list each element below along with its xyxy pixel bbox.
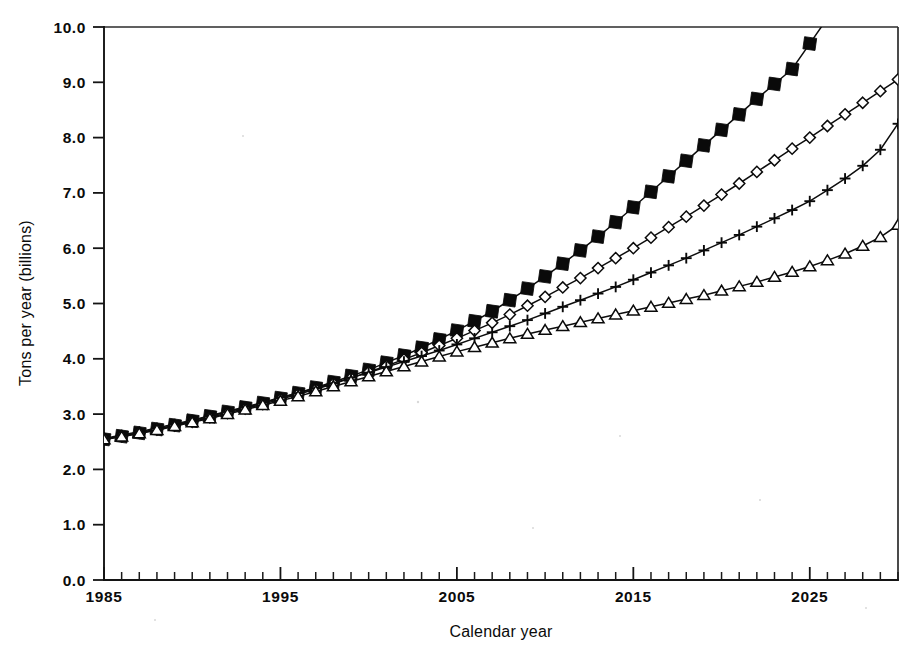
x-tick-label: 2015: [615, 588, 652, 605]
marker-open-diamond: [628, 243, 639, 254]
marker-open-diamond: [557, 282, 568, 293]
marker-open-diamond: [575, 272, 586, 283]
marker-open-diamond: [857, 97, 868, 108]
y-tick-label: 9.0: [63, 74, 86, 91]
marker-filled-square: [768, 77, 782, 91]
marker-open-triangle: [804, 261, 816, 271]
marker-open-triangle: [839, 248, 851, 258]
marker-open-diamond: [522, 300, 533, 311]
marker-open-diamond: [592, 263, 603, 274]
marker-filled-square: [609, 215, 623, 229]
y-tick-label: 2.0: [63, 461, 86, 478]
chart-canvas: 0.01.02.03.04.05.06.07.08.09.010.0 19851…: [0, 0, 909, 659]
marker-filled-square: [626, 200, 640, 214]
series-open-triangle: [98, 219, 904, 443]
marker-filled-square: [574, 244, 588, 258]
y-tick-label: 3.0: [63, 406, 86, 423]
marker-open-diamond: [875, 86, 886, 97]
marker-open-diamond: [839, 109, 850, 120]
y-tick-label: 0.0: [63, 572, 86, 589]
marker-filled-square: [538, 270, 552, 284]
x-tick-label: 1985: [86, 588, 123, 605]
y-tick-label: 6.0: [63, 240, 86, 257]
marker-filled-square: [662, 169, 676, 183]
marker-open-diamond: [804, 132, 815, 143]
marker-filled-square: [750, 92, 764, 106]
marker-open-diamond: [734, 178, 745, 189]
y-tick-label: 8.0: [63, 129, 86, 146]
y-tick-label: 1.0: [63, 516, 86, 533]
y-tick-label: 7.0: [63, 184, 86, 201]
marker-open-triangle: [821, 255, 833, 265]
x-tick-label: 2005: [438, 588, 475, 605]
marker-filled-square: [697, 138, 711, 152]
marker-open-diamond: [698, 200, 709, 211]
marker-filled-square: [785, 62, 799, 76]
marker-open-diamond: [540, 291, 551, 302]
marker-open-triangle: [857, 240, 869, 250]
plot-frame: [104, 27, 898, 580]
data-series-layer: [97, 0, 904, 446]
x-axis-tick-labels: 19851995200520152025: [86, 588, 829, 605]
marker-open-diamond: [645, 232, 656, 243]
marker-open-diamond: [504, 309, 515, 320]
marker-open-diamond: [787, 143, 798, 154]
marker-filled-square: [679, 154, 693, 168]
y-axis-tick-labels: 0.01.02.03.04.05.06.07.08.09.010.0: [53, 19, 86, 589]
marker-filled-square: [644, 185, 658, 199]
marker-filled-square: [591, 230, 605, 244]
x-tick-label: 2025: [791, 588, 828, 605]
series-filled-square: [97, 0, 848, 446]
y-axis-title: Tons per year (billions): [17, 220, 34, 386]
x-tick-label: 1995: [262, 588, 299, 605]
series-filled-square-line: [104, 0, 849, 439]
marker-filled-square: [556, 257, 570, 271]
marker-open-diamond: [822, 120, 833, 131]
marker-open-triangle: [892, 219, 904, 229]
marker-filled-square: [485, 304, 499, 318]
marker-open-diamond: [610, 253, 621, 264]
marker-filled-square: [715, 123, 729, 137]
series-plus: [99, 118, 904, 443]
marker-filled-square: [732, 107, 746, 121]
marker-filled-square: [521, 282, 535, 296]
marker-open-diamond: [663, 222, 674, 233]
marker-open-diamond: [716, 189, 727, 200]
marker-open-diamond: [487, 317, 498, 328]
marker-open-diamond: [681, 211, 692, 222]
series-open-diamond: [98, 74, 903, 445]
scan-noise: [154, 135, 867, 621]
y-tick-label: 10.0: [53, 19, 86, 36]
marker-open-diamond: [892, 74, 903, 85]
chart-figure: 0.01.02.03.04.05.06.07.08.09.010.0 19851…: [0, 0, 909, 659]
marker-open-diamond: [769, 155, 780, 166]
y-tick-label: 5.0: [63, 295, 86, 312]
x-axis-title: Calendar year: [449, 623, 553, 640]
marker-open-triangle: [874, 232, 886, 242]
marker-filled-square: [803, 37, 817, 51]
marker-open-diamond: [751, 166, 762, 177]
series-open-diamond-line: [104, 80, 898, 439]
x-axis-minor-ticks: [122, 572, 898, 580]
y-axis-ticks: [93, 27, 104, 580]
marker-filled-square: [503, 293, 517, 307]
y-tick-label: 4.0: [63, 350, 86, 367]
